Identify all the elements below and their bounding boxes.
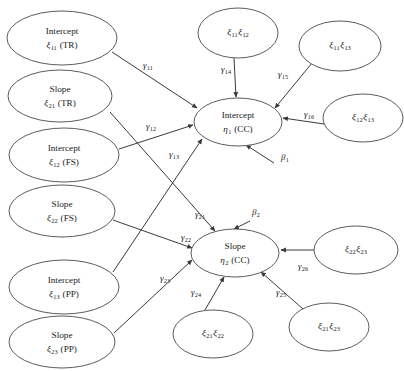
- node-label-line1: Slope: [225, 241, 246, 251]
- path-coefficient-label: γ24: [191, 287, 201, 298]
- diagram-svg: Interceptξ11 (TR)Slopeξ21 (TR)Interceptξ…: [0, 0, 404, 371]
- latent-node-x_slp_tr[interactable]: Slopeξ21 (TR): [8, 70, 112, 122]
- path-coefficient-label: γ23: [160, 273, 170, 284]
- interaction-node-ix_12_13[interactable]: ξ12ξ13: [323, 94, 403, 142]
- edge-layer: [110, 52, 324, 333]
- interaction-node-ix_21_23[interactable]: ξ21ξ23: [289, 303, 369, 351]
- path-coefficient-label: γ12: [146, 121, 156, 132]
- latent-node-x_slp_fs[interactable]: Slopeξ22 (FS): [9, 185, 115, 237]
- path-coefficient-label: γ25: [276, 287, 286, 298]
- path-coefficient-label: β1: [280, 152, 289, 163]
- latent-node-x_int_fs[interactable]: Interceptξ12 (FS): [9, 128, 119, 182]
- path-arrow-g14: [234, 58, 236, 97]
- path-coefficient-label: γ22: [181, 232, 191, 243]
- latent-node-eta2[interactable]: Slopeη2 (CC): [191, 229, 279, 277]
- path-coefficient-label: γ13: [169, 149, 179, 160]
- interaction-node-ix_11_13[interactable]: ξ11ξ13: [299, 21, 381, 71]
- path-coefficient-label: γ26: [298, 261, 308, 272]
- node-label-line1: Slope: [50, 84, 71, 94]
- path-arrow-g24: [205, 277, 224, 310]
- path-arrow-b2: [234, 221, 250, 229]
- interaction-node-ix_22_23[interactable]: ξ22ξ23: [314, 226, 398, 274]
- path-coefficient-label: γ14: [221, 64, 231, 75]
- node-label-line2: η2 (CC): [220, 255, 249, 266]
- latent-node-x_slp_pp[interactable]: Slopeξ23 (PP): [9, 316, 115, 368]
- latent-node-x_int_pp[interactable]: Interceptξ13 (PP): [9, 260, 119, 314]
- interaction-node-ix_11_12[interactable]: ξ11ξ12: [198, 8, 278, 58]
- path-coefficient-label: γ11: [143, 60, 153, 71]
- node-label-line1: Slope: [52, 330, 73, 340]
- node-label-line1: Slope: [52, 199, 73, 209]
- path-coefficient-label: γ16: [304, 109, 314, 120]
- interaction-node-ix_21_22[interactable]: ξ21ξ22: [173, 310, 253, 358]
- node-label-line1: Intercept: [48, 143, 81, 153]
- path-diagram-canvas: Interceptξ11 (TR)Slopeξ21 (TR)Interceptξ…: [0, 0, 404, 371]
- path-arrow-g13: [113, 139, 202, 272]
- node-layer: Interceptξ11 (TR)Slopeξ21 (TR)Interceptξ…: [7, 8, 403, 368]
- path-coefficient-label: β2: [251, 207, 260, 218]
- node-label-line1: Intercept: [222, 110, 255, 120]
- node-label-line2: η1 (CC): [223, 124, 252, 135]
- latent-node-eta1[interactable]: Interceptη1 (CC): [194, 98, 282, 146]
- node-label-line1: Intercept: [48, 275, 81, 285]
- node-label-line1: Intercept: [46, 26, 79, 36]
- path-arrow-b1: [246, 145, 274, 163]
- path-coefficient-label: γ21: [195, 209, 205, 220]
- path-arrow-g11: [112, 52, 197, 108]
- path-coefficient-label: γ15: [278, 69, 288, 80]
- latent-node-x_int_tr[interactable]: Interceptξ11 (TR): [7, 11, 117, 65]
